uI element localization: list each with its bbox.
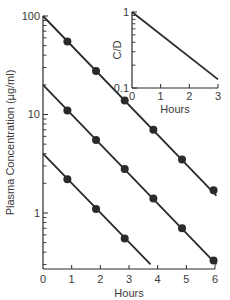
data-point-dose-mid	[178, 224, 186, 232]
data-point-dose-high	[63, 38, 71, 46]
data-point-dose-high	[92, 67, 100, 75]
data-point-dose-mid	[149, 195, 157, 203]
data-point-dose-high	[121, 96, 129, 104]
x-tick-label: 1	[158, 90, 164, 102]
x-tick-label: 3	[126, 273, 132, 285]
data-point-dose-low	[92, 205, 100, 213]
data-point-dose-high	[149, 126, 157, 134]
series-line-normalized	[132, 12, 218, 79]
y-tick-label: 1	[34, 207, 40, 219]
x-tick-label: 6	[212, 273, 218, 285]
y-axis-label: Plasma Concentration (µg/ml)	[4, 70, 16, 216]
data-point-dose-mid	[92, 136, 100, 144]
data-point-dose-high	[178, 155, 186, 163]
y-tick-label: 10	[28, 108, 40, 120]
y-tick-label: 0.1	[114, 82, 129, 94]
data-point-dose-low	[63, 175, 71, 183]
data-point-dose-mid	[210, 256, 218, 264]
x-axis-label: Hours	[160, 103, 190, 115]
y-tick-label: 1	[123, 6, 129, 18]
pharmacokinetic-chart: 0123456100101HoursPlasma Concentration (…	[0, 0, 230, 300]
y-axis-label: C/D	[111, 40, 123, 59]
data-point-dose-low	[121, 235, 129, 243]
y-tick-label: 100	[22, 10, 40, 22]
x-tick-label: 1	[69, 273, 75, 285]
x-tick-label: 0	[129, 90, 135, 102]
x-tick-label: 3	[215, 90, 221, 102]
x-tick-label: 0	[40, 273, 46, 285]
data-point-dose-mid	[121, 165, 129, 173]
x-tick-label: 2	[186, 90, 192, 102]
x-tick-label: 5	[183, 273, 189, 285]
x-tick-label: 2	[97, 273, 103, 285]
x-tick-label: 4	[155, 273, 161, 285]
data-point-dose-mid	[63, 106, 71, 114]
data-point-dose-high	[210, 186, 218, 194]
x-axis-label: Hours	[114, 287, 144, 299]
